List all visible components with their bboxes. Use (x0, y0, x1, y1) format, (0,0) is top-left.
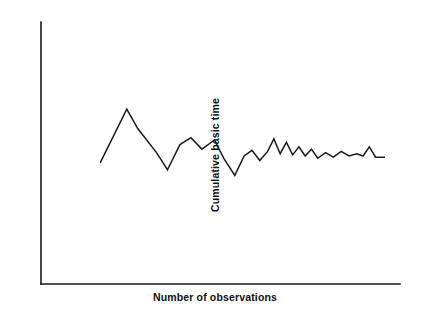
data-series-line (100, 109, 385, 175)
chart-figure: Cumulative basic time Number of observat… (0, 0, 430, 309)
x-axis-label: Number of observations (0, 291, 430, 303)
y-axis-label: Cumulative basic time (209, 97, 221, 211)
